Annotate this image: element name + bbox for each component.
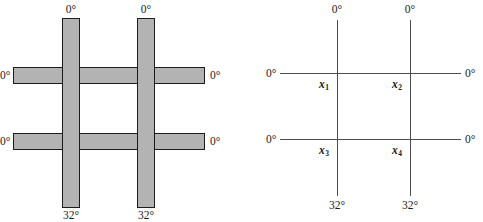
label-left-lower-angle: 0° bbox=[0, 136, 10, 148]
node-label-x4: x4 bbox=[392, 145, 402, 157]
label-right-upper-angle: 0° bbox=[465, 68, 475, 80]
shaded-lattice-panel: 0° 0° 0° 0° 0° 0° 32° 32° bbox=[0, 0, 241, 222]
node-label-x3-base: x bbox=[319, 144, 325, 156]
label-left-upper-angle: 0° bbox=[0, 70, 10, 82]
label-left-lower-angle: 0° bbox=[266, 134, 276, 146]
label-top-right-angle: 0° bbox=[405, 4, 415, 16]
lattice-line-vertical-right bbox=[410, 20, 411, 196]
node-label-x2-subscript: 2 bbox=[398, 83, 402, 92]
label-top-left-angle: 0° bbox=[332, 4, 342, 16]
node-label-x2-base: x bbox=[392, 78, 398, 90]
label-top-right-angle: 0° bbox=[141, 4, 151, 16]
node-label-x1-subscript: 1 bbox=[325, 83, 329, 92]
node-label-x3: x3 bbox=[319, 145, 329, 157]
node-label-x4-subscript: 4 bbox=[398, 149, 402, 158]
label-right-upper-angle: 0° bbox=[210, 70, 220, 82]
skeleton-lattice-panel: 0° 0° 0° 0° 0° 0° 32° 32° x1 x2 x3 x4 bbox=[241, 0, 483, 222]
label-right-lower-angle: 0° bbox=[210, 136, 220, 148]
lattice-line-vertical-left bbox=[337, 20, 338, 196]
node-label-x1: x1 bbox=[319, 79, 329, 91]
lattice-line-horizontal-lower bbox=[280, 139, 461, 140]
label-top-left-angle: 0° bbox=[66, 4, 76, 16]
lattice-line-horizontal-upper bbox=[280, 73, 461, 74]
node-label-x4-base: x bbox=[392, 144, 398, 156]
label-bottom-right-angle: 32° bbox=[138, 210, 154, 222]
node-label-x2: x2 bbox=[392, 79, 402, 91]
figure-root: 0° 0° 0° 0° 0° 0° 32° 32° 0° 0° 0° 0° 0°… bbox=[0, 0, 483, 222]
label-bottom-left-angle: 32° bbox=[329, 200, 345, 212]
label-bottom-right-angle: 32° bbox=[402, 200, 418, 212]
shaded-bar-vertical-left bbox=[62, 18, 80, 208]
label-bottom-left-angle: 32° bbox=[63, 210, 79, 222]
label-right-lower-angle: 0° bbox=[465, 134, 475, 146]
node-label-x3-subscript: 3 bbox=[325, 149, 329, 158]
shaded-bar-horizontal-lower bbox=[13, 133, 205, 150]
shaded-joint-2 bbox=[138, 68, 153, 82]
shaded-bar-vertical-right bbox=[137, 18, 155, 208]
shaded-joint-3 bbox=[63, 134, 78, 148]
shaded-bar-horizontal-upper bbox=[13, 67, 205, 84]
label-left-upper-angle: 0° bbox=[266, 68, 276, 80]
shaded-joint-1 bbox=[63, 68, 78, 82]
node-label-x1-base: x bbox=[319, 78, 325, 90]
shaded-joint-4 bbox=[138, 134, 153, 148]
